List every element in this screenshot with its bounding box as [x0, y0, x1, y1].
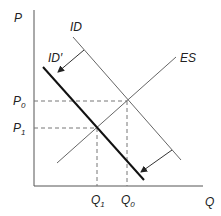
p0-label: P0: [13, 94, 26, 110]
import-demand-diagram: P Q ID ID′ ES P0 P1 Q1 Q0: [0, 0, 221, 216]
es-curve: [57, 57, 176, 163]
q0-label: Q0: [121, 193, 135, 209]
id-prime-label: ID′: [48, 51, 63, 65]
y-axis-label: P: [14, 11, 22, 25]
id-curve: [73, 37, 181, 160]
x-axis-label: Q: [205, 195, 214, 209]
shift-arrow-bottom: [141, 150, 172, 172]
q1-label: Q1: [91, 193, 105, 209]
id-prime-curve: [43, 67, 144, 180]
id-label: ID: [70, 20, 82, 34]
es-label: ES: [180, 51, 196, 65]
p1-label: P1: [13, 121, 25, 137]
